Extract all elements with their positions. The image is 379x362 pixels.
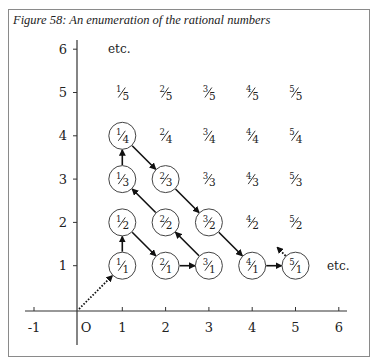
- svg-text:3: 3: [203, 84, 208, 94]
- y-tick-label: 4: [59, 128, 67, 143]
- svg-text:5: 5: [289, 127, 294, 137]
- svg-text:1: 1: [116, 257, 121, 267]
- y-axis-ticks: 123456: [59, 42, 77, 274]
- svg-text:5: 5: [289, 84, 294, 94]
- y-tick-label: 2: [59, 215, 67, 230]
- svg-text:2: 2: [209, 219, 216, 231]
- svg-text:3: 3: [203, 257, 208, 267]
- svg-text:1: 1: [116, 214, 121, 224]
- svg-text:5: 5: [289, 257, 294, 267]
- svg-text:3: 3: [209, 176, 216, 188]
- x-tick-label: 1: [118, 320, 126, 335]
- x-tick-label: 2: [161, 320, 169, 335]
- fraction-5-2: 52: [289, 214, 302, 232]
- svg-text:2: 2: [296, 219, 303, 231]
- svg-text:3: 3: [203, 127, 208, 137]
- x-tick-label: 6: [335, 320, 343, 335]
- fraction-1-5: 15: [116, 84, 129, 102]
- y-tick-label: 5: [59, 85, 67, 100]
- svg-text:3: 3: [203, 214, 208, 224]
- svg-text:1: 1: [296, 263, 303, 275]
- x-tick-label: 5: [291, 320, 299, 335]
- svg-text:3: 3: [252, 176, 259, 188]
- fraction-1-4: 14: [109, 122, 136, 149]
- y-tick-label: 1: [59, 258, 67, 273]
- svg-text:2: 2: [252, 219, 259, 231]
- svg-text:2: 2: [159, 214, 164, 224]
- svg-text:5: 5: [166, 90, 173, 102]
- svg-text:2: 2: [122, 219, 129, 231]
- svg-text:2: 2: [159, 257, 164, 267]
- svg-text:1: 1: [116, 127, 121, 137]
- y-tick-label: 6: [59, 42, 67, 57]
- fraction-4-3: 43: [246, 171, 259, 189]
- fraction-2-2: 22: [152, 209, 179, 236]
- svg-text:1: 1: [209, 263, 216, 275]
- svg-text:4: 4: [296, 133, 303, 145]
- fraction-grid: 1121314151122232425213233343531424344454…: [109, 84, 309, 279]
- svg-text:1: 1: [122, 263, 129, 275]
- x-tick-label: 4: [248, 320, 256, 335]
- x-tick-label: 3: [205, 320, 213, 335]
- x-tick-label: O: [81, 320, 92, 335]
- fraction-4-5: 45: [246, 84, 259, 102]
- svg-text:5: 5: [122, 90, 129, 102]
- fraction-3-5: 35: [203, 84, 216, 102]
- svg-text:5: 5: [209, 90, 216, 102]
- fraction-3-4: 34: [203, 127, 216, 145]
- svg-text:1: 1: [116, 84, 121, 94]
- svg-text:5: 5: [252, 90, 259, 102]
- svg-text:2: 2: [159, 171, 164, 181]
- svg-text:5: 5: [289, 171, 294, 181]
- rational-enumeration-diagram: -1O123456 123456 etc. etc. 1121314151122…: [0, 0, 379, 362]
- fraction-3-1: 31: [195, 252, 222, 279]
- svg-text:4: 4: [166, 133, 173, 145]
- svg-text:1: 1: [116, 171, 121, 181]
- svg-text:3: 3: [122, 176, 129, 188]
- svg-text:2: 2: [159, 84, 164, 94]
- fraction-5-5: 55: [289, 84, 302, 102]
- svg-text:4: 4: [246, 214, 251, 224]
- svg-text:5: 5: [296, 90, 303, 102]
- fraction-2-3: 23: [152, 166, 179, 193]
- fraction-1-3: 13: [109, 166, 136, 193]
- etc-right-label: etc.: [327, 259, 349, 273]
- etc-top-label: etc.: [108, 42, 130, 56]
- fraction-5-1: 51: [282, 252, 309, 279]
- fraction-2-5: 25: [159, 84, 172, 102]
- fraction-1-2: 12: [109, 209, 136, 236]
- y-tick-label: 3: [59, 172, 67, 187]
- svg-text:4: 4: [246, 127, 251, 137]
- svg-text:4: 4: [252, 133, 259, 145]
- fraction-2-1: 21: [152, 252, 179, 279]
- svg-text:5: 5: [289, 214, 294, 224]
- svg-text:4: 4: [209, 133, 216, 145]
- svg-text:4: 4: [122, 133, 129, 145]
- fraction-2-4: 24: [159, 127, 172, 145]
- svg-text:3: 3: [296, 176, 303, 188]
- fraction-4-4: 44: [246, 127, 259, 145]
- svg-text:1: 1: [166, 263, 173, 275]
- svg-text:4: 4: [246, 257, 251, 267]
- svg-text:1: 1: [252, 263, 259, 275]
- x-tick-label: -1: [28, 320, 41, 335]
- svg-text:4: 4: [246, 171, 251, 181]
- svg-text:2: 2: [159, 127, 164, 137]
- fraction-3-3: 33: [203, 171, 216, 189]
- fraction-3-2: 32: [195, 209, 222, 236]
- svg-text:3: 3: [203, 171, 208, 181]
- fraction-1-1: 11: [109, 252, 136, 279]
- svg-text:4: 4: [246, 84, 251, 94]
- fraction-4-2: 42: [246, 214, 259, 232]
- svg-text:2: 2: [166, 219, 173, 231]
- fraction-5-3: 53: [289, 171, 302, 189]
- fraction-4-1: 41: [239, 252, 266, 279]
- svg-text:3: 3: [166, 176, 173, 188]
- fraction-5-4: 54: [289, 127, 302, 145]
